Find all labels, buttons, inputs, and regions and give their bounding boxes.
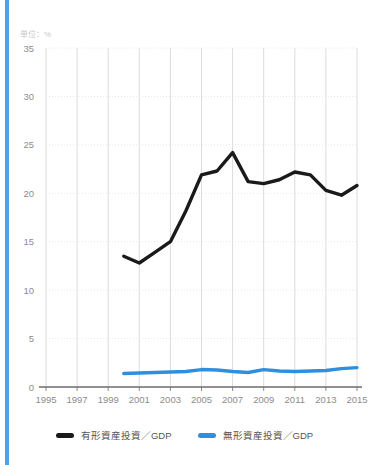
chart-legend: 有形資産投資／GDP 無形資産投資／GDP	[0, 428, 369, 442]
svg-text:5: 5	[29, 333, 34, 344]
y-axis-tick-labels: 05101520253035	[23, 43, 34, 393]
data-series-layer	[124, 153, 357, 374]
svg-text:20: 20	[23, 188, 34, 199]
svg-text:1999: 1999	[98, 394, 119, 405]
svg-text:2005: 2005	[191, 394, 212, 405]
svg-text:30: 30	[23, 91, 34, 102]
series-line	[124, 153, 357, 263]
chart-plot-area: 05101520253035 1995199719992001200320052…	[0, 0, 369, 420]
svg-text:25: 25	[23, 139, 34, 150]
legend-swatch-intangible	[198, 433, 216, 438]
svg-text:2003: 2003	[160, 394, 181, 405]
legend-item-intangible[interactable]: 無形資産投資／GDP	[198, 428, 314, 442]
legend-label-tangible: 有形資産投資／GDP	[81, 428, 172, 442]
svg-text:0: 0	[29, 382, 34, 393]
svg-text:15: 15	[23, 236, 34, 247]
legend-swatch-tangible	[56, 433, 74, 438]
svg-text:2001: 2001	[129, 394, 150, 405]
svg-text:2015: 2015	[346, 394, 367, 405]
svg-text:1997: 1997	[67, 394, 88, 405]
svg-text:35: 35	[23, 43, 34, 54]
svg-text:2007: 2007	[222, 394, 243, 405]
series-line	[124, 368, 357, 374]
svg-text:2011: 2011	[285, 394, 305, 405]
legend-label-intangible: 無形資産投資／GDP	[223, 428, 314, 442]
svg-text:2013: 2013	[315, 394, 336, 405]
svg-text:1995: 1995	[35, 394, 56, 405]
line-chart-svg: 05101520253035 1995199719992001200320052…	[0, 0, 369, 420]
x-axis-tick-labels: 1995199719992001200320052007200920112013…	[35, 394, 367, 405]
svg-text:2009: 2009	[253, 394, 274, 405]
svg-text:10: 10	[23, 285, 34, 296]
legend-item-tangible[interactable]: 有形資産投資／GDP	[56, 428, 172, 442]
vertical-gridlines	[46, 48, 357, 387]
